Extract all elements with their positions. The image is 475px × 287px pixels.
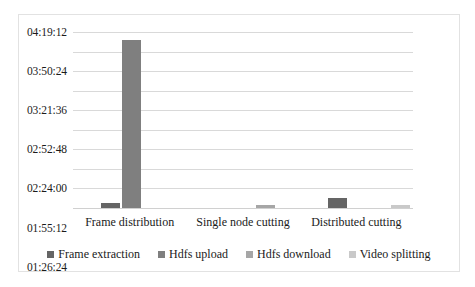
bar[interactable] <box>328 198 347 208</box>
legend-item[interactable]: Frame extraction <box>47 247 140 262</box>
bar[interactable] <box>122 40 141 208</box>
bar[interactable] <box>391 205 410 208</box>
y-axis-tick-label: 02:24:00 <box>27 182 67 194</box>
legend-swatch-icon <box>246 251 253 258</box>
y-axis-tick-label: 04:19:12 <box>27 26 67 38</box>
x-axis-tick-label: Single node cutting <box>196 215 289 230</box>
x-axis-tick-label: Frame distribution <box>85 215 174 230</box>
legend-item[interactable]: Hdfs upload <box>158 247 228 262</box>
bar[interactable] <box>101 203 120 208</box>
plot-area: 00:00:0000:28:4800:57:3601:26:2401:55:12… <box>73 32 413 208</box>
legend-swatch-icon <box>349 251 356 258</box>
bar[interactable] <box>256 205 275 208</box>
legend-swatch-icon <box>158 251 165 258</box>
legend-item[interactable]: Hdfs download <box>246 247 331 262</box>
legend-label: Hdfs upload <box>169 247 228 262</box>
bar-stack <box>300 32 441 208</box>
bar-group: Single node cutting <box>186 32 299 208</box>
legend-label: Video splitting <box>360 247 431 262</box>
bar-group: Distributed cutting <box>300 32 413 208</box>
legend-label: Hdfs download <box>257 247 331 262</box>
legend-label: Frame extraction <box>58 247 140 262</box>
gridline: 00:00:00 <box>73 208 413 209</box>
y-axis-tick-label: 01:55:12 <box>27 222 67 234</box>
chart-frame: 00:00:0000:28:4800:57:3601:26:2401:55:12… <box>18 14 460 272</box>
bar-group: Frame distribution <box>73 32 186 208</box>
y-axis-tick-label: 02:52:48 <box>27 143 67 155</box>
y-axis-tick-label: 03:21:36 <box>27 104 67 116</box>
x-axis-tick-label: Distributed cutting <box>311 215 401 230</box>
y-axis-tick-label: 01:26:24 <box>27 261 67 273</box>
legend-item[interactable]: Video splitting <box>349 247 431 262</box>
chart-legend: Frame extractionHdfs uploadHdfs download… <box>19 247 459 262</box>
y-axis-tick-label: 03:50:24 <box>27 65 67 77</box>
legend-swatch-icon <box>47 251 54 258</box>
